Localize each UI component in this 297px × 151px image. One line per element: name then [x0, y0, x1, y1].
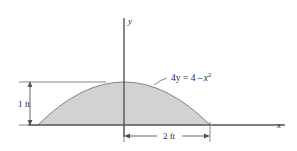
equation-leader-line [154, 78, 167, 85]
equation-lhs: 4y [171, 73, 181, 83]
width-arrow-right-icon [204, 134, 210, 139]
figure-container: y x 1 ft 2 ft 4y=4–x2 [0, 0, 297, 151]
x-axis-label: x [276, 120, 281, 130]
y-axis-label: y [127, 16, 132, 26]
equation-exponent: 2 [208, 71, 211, 78]
width-arrow-left-icon [124, 134, 130, 139]
equation-minus-sign: – [197, 73, 203, 83]
curve-equation-label: 4y=4–x2 [171, 71, 211, 83]
width-dimension-label: 2 ft [163, 131, 176, 141]
equation-equals: = [183, 73, 188, 83]
height-dimension-label: 1 ft [18, 99, 31, 109]
parabola-figure: y x 1 ft 2 ft 4y=4–x2 [0, 0, 297, 151]
equation-rhs-constant: 4 [191, 73, 196, 83]
